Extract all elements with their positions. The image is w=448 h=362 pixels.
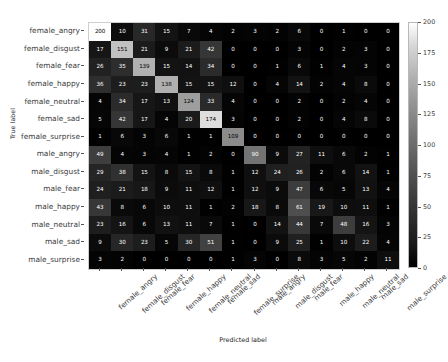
matrix-cell: 9 [266, 234, 288, 252]
y-tick-mark [81, 65, 84, 66]
matrix-cell: 2 [355, 146, 377, 164]
matrix-cell: 1 [222, 234, 244, 252]
y-tick-mark [81, 30, 84, 31]
matrix-cell: 4 [155, 111, 177, 129]
matrix-cell: 11 [377, 251, 399, 269]
x-tick-mark [320, 268, 321, 271]
x-axis-title: Predicted label [88, 336, 398, 344]
matrix-cell: 8 [288, 251, 310, 269]
matrix-cell: 0 [310, 23, 332, 41]
colorbar-tick-label: 100 [423, 141, 435, 149]
matrix-cell: 17 [133, 111, 155, 129]
matrix-cell: 33 [200, 93, 222, 111]
x-tick-mark [364, 268, 365, 271]
matrix-cell: 1 [200, 199, 222, 217]
matrix-cell: 0 [377, 23, 399, 41]
matrix-cell: 8 [200, 164, 222, 182]
matrix-cell: 9 [266, 146, 288, 164]
matrix-cell: 2 [333, 41, 355, 59]
matrix-cell: 0 [178, 251, 200, 269]
matrix-cell: 3 [222, 111, 244, 129]
matrix-cell: 6 [333, 164, 355, 182]
colorbar-tick-mark [418, 53, 421, 54]
matrix-cell: 1 [377, 146, 399, 164]
matrix-cell: 34 [111, 93, 133, 111]
matrix-cell: 16 [355, 216, 377, 234]
matrix-cell: 0 [266, 41, 288, 59]
matrix-cell: 24 [89, 181, 111, 199]
matrix-cell: 15 [155, 23, 177, 41]
colorbar-tick-mark [418, 207, 421, 208]
matrix-cell: 19 [310, 199, 332, 217]
matrix-cell: 0 [266, 93, 288, 111]
matrix-cell: 20 [178, 111, 200, 129]
matrix-cell: 15 [155, 58, 177, 76]
matrix-cell: 8 [355, 76, 377, 94]
x-tick-mark [121, 268, 122, 271]
matrix-cell: 6 [288, 58, 310, 76]
matrix-cell: 3 [310, 251, 332, 269]
matrix-cell: 4 [333, 111, 355, 129]
matrix-cell: 6 [133, 216, 155, 234]
y-tick-label: male_sad [0, 233, 84, 251]
matrix-cell: 23 [111, 76, 133, 94]
matrix-cell: 0 [377, 76, 399, 94]
matrix-cell: 17 [89, 41, 111, 59]
matrix-cell: 151 [111, 41, 133, 59]
matrix-cell: 13 [155, 93, 177, 111]
matrix-cell: 0 [222, 146, 244, 164]
matrix-cell: 0 [310, 41, 332, 59]
matrix-cell: 8 [266, 199, 288, 217]
matrix-cell: 14 [266, 216, 288, 234]
colorbar-tick-label: 50 [423, 203, 431, 211]
x-tick-label: male_surprise [405, 272, 448, 312]
matrix-cell: 22 [355, 234, 377, 252]
colorbar-tick-label: 175 [423, 49, 435, 57]
matrix-cell: 4 [222, 93, 244, 111]
matrix-cell: 3 [377, 216, 399, 234]
matrix-cell: 0 [244, 93, 266, 111]
matrix-cell: 2 [288, 93, 310, 111]
matrix-cell: 2 [333, 93, 355, 111]
matrix-cell: 90 [244, 146, 266, 164]
matrix-cell: 35 [111, 58, 133, 76]
matrix-cell: 1 [200, 128, 222, 146]
matrix-cell: 3 [244, 251, 266, 269]
matrix-cell: 5 [333, 251, 355, 269]
matrix-cell: 0 [222, 58, 244, 76]
matrix-cell: 0 [310, 111, 332, 129]
matrix-cell: 30 [111, 234, 133, 252]
matrix-cell: 2 [355, 251, 377, 269]
matrix-cell: 15 [178, 76, 200, 94]
matrix-cell: 1 [178, 146, 200, 164]
matrix-cell: 2 [288, 111, 310, 129]
matrix-cell: 61 [288, 199, 310, 217]
matrix-cell: 2 [266, 23, 288, 41]
y-tick-mark [81, 118, 84, 119]
colorbar-gradient [408, 22, 418, 268]
y-tick-mark [81, 83, 84, 84]
colorbar: 0255075100125150175200 [408, 22, 448, 268]
y-tick-label: male_disgust [0, 163, 84, 181]
matrix-cell: 200 [89, 23, 111, 41]
matrix-cell: 12 [244, 164, 266, 182]
matrix-cell: 4 [266, 76, 288, 94]
matrix-cell: 4 [155, 146, 177, 164]
matrix-cell: 2 [222, 23, 244, 41]
matrix-cell: 0 [222, 41, 244, 59]
matrix-cell: 26 [89, 58, 111, 76]
matrix-cell: 4 [200, 23, 222, 41]
colorbar-tick-label: 200 [423, 18, 435, 26]
matrix-cell: 15 [178, 164, 200, 182]
matrix-cell: 0 [266, 111, 288, 129]
matrix-cell: 138 [155, 76, 177, 94]
matrix-cell: 0 [377, 128, 399, 146]
matrix-cell: 38 [111, 164, 133, 182]
matrix-cell: 3 [288, 41, 310, 59]
x-tick-mark [276, 268, 277, 271]
y-tick-label: male_neutral [0, 215, 84, 233]
y-tick-mark [81, 48, 84, 49]
matrix-cell: 13 [355, 181, 377, 199]
matrix-cell: 6 [155, 128, 177, 146]
matrix-cell: 36 [89, 76, 111, 94]
